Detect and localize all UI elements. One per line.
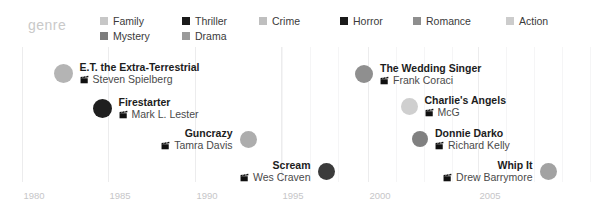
movie-entry[interactable]: Donnie DarkoRichard Kelly (412, 127, 510, 151)
legend-item-drama[interactable]: Drama (182, 31, 227, 42)
legend-swatch-icon (182, 17, 190, 25)
legend-item-crime[interactable]: Crime (259, 16, 300, 27)
legend-item-action[interactable]: Action (506, 16, 548, 27)
legend-item-label: Mystery (113, 31, 150, 42)
legend-item-thriller[interactable]: Thriller (182, 16, 227, 27)
clapperboard-icon (435, 141, 444, 150)
legend-swatch-icon (259, 17, 267, 25)
legend-swatch-icon (413, 17, 421, 25)
legend-item-romance[interactable]: Romance (413, 16, 471, 27)
movie-title: The Wedding Singer (380, 62, 481, 74)
x-axis-tick-label: 1980 (23, 190, 44, 201)
director-name: Frank Coraci (393, 74, 453, 86)
legend-item-label: Horror (353, 16, 383, 27)
movie-entry[interactable]: E.T. the Extra-TerrestrialSteven Spielbe… (54, 61, 200, 85)
movie-label-group: Donnie DarkoRichard Kelly (435, 127, 510, 151)
director-row: Tamra Davis (161, 139, 232, 151)
movie-title: Donnie Darko (435, 127, 503, 139)
movie-title: Whip It (498, 159, 533, 171)
legend-item-family[interactable]: Family (100, 16, 144, 27)
movie-title: Guncrazy (185, 127, 233, 139)
movie-title: Charlie's Angels (425, 94, 506, 106)
movie-label-group: E.T. the Extra-TerrestrialSteven Spielbe… (80, 61, 200, 85)
clapperboard-icon (443, 173, 452, 182)
movie-entry[interactable]: GuncrazyTamra Davis (0, 127, 257, 151)
legend-swatch-icon (182, 32, 190, 40)
movie-label-group: Whip ItDrew Barrymore (443, 159, 532, 183)
x-axis: 198019851990199520002005 (0, 182, 596, 214)
clapperboard-icon (380, 76, 389, 85)
x-axis-tick-label: 1990 (196, 190, 217, 201)
director-name: Mark L. Lester (132, 108, 199, 120)
movie-bubble[interactable] (540, 163, 557, 180)
x-axis-tick-label: 1995 (282, 190, 303, 201)
movie-bubble[interactable] (401, 98, 418, 115)
movie-bubble[interactable] (54, 64, 73, 83)
movie-label-group: GuncrazyTamra Davis (161, 127, 232, 151)
legend-item-label: Crime (272, 16, 300, 27)
director-name: Richard Kelly (448, 139, 510, 151)
plot-area: E.T. the Extra-TerrestrialSteven Spielbe… (0, 47, 596, 182)
movie-entry[interactable]: Whip ItDrew Barrymore (0, 159, 557, 183)
director-row: Frank Coraci (380, 74, 453, 86)
clapperboard-icon (161, 141, 170, 150)
legend-item-label: Thriller (195, 16, 227, 27)
gridline-minor (562, 47, 563, 182)
director-row: Richard Kelly (435, 139, 510, 151)
legend-swatch-icon (100, 17, 108, 25)
legend-item-label: Family (113, 16, 144, 27)
director-row: Steven Spielberg (80, 73, 173, 85)
clapperboard-icon (119, 110, 128, 119)
legend-swatch-icon (506, 17, 514, 25)
movie-label-group: The Wedding SingerFrank Coraci (380, 62, 481, 86)
x-axis-tick-label: 2000 (369, 190, 390, 201)
movie-title: Firestarter (119, 96, 171, 108)
legend-item-label: Action (519, 16, 548, 27)
x-axis-tick-label: 1985 (109, 190, 130, 201)
director-row: McG (425, 106, 460, 118)
clapperboard-icon (80, 75, 89, 84)
director-name: McG (438, 106, 460, 118)
movie-label-group: Charlie's AngelsMcG (425, 94, 506, 118)
legend-item-label: Romance (426, 16, 471, 27)
movie-entry[interactable]: Charlie's AngelsMcG (401, 94, 506, 118)
gridline-minor (590, 47, 591, 182)
clapperboard-icon (425, 108, 434, 117)
director-name: Tamra Davis (174, 139, 232, 151)
x-axis-tick-label: 2005 (479, 190, 500, 201)
movie-bubble[interactable] (355, 65, 373, 83)
genre-timeline-chart: genre FamilyMysteryThrillerDramaCrimeHor… (0, 0, 596, 214)
genre-legend: genre FamilyMysteryThrillerDramaCrimeHor… (0, 8, 596, 44)
legend-item-label: Drama (195, 31, 227, 42)
movie-bubble[interactable] (93, 99, 112, 118)
legend-swatch-icon (100, 32, 108, 40)
director-row: Mark L. Lester (119, 108, 199, 120)
legend-swatch-icon (340, 17, 348, 25)
director-name: Steven Spielberg (93, 73, 173, 85)
legend-title: genre (28, 17, 66, 33)
legend-item-mystery[interactable]: Mystery (100, 31, 150, 42)
movie-bubble[interactable] (240, 131, 257, 148)
movie-entry[interactable]: The Wedding SingerFrank Coraci (355, 62, 481, 86)
legend-item-horror[interactable]: Horror (340, 16, 383, 27)
movie-title: E.T. the Extra-Terrestrial (80, 61, 200, 73)
movie-entry[interactable]: FirestarterMark L. Lester (93, 96, 199, 120)
movie-label-group: FirestarterMark L. Lester (119, 96, 199, 120)
movie-bubble[interactable] (412, 131, 428, 147)
